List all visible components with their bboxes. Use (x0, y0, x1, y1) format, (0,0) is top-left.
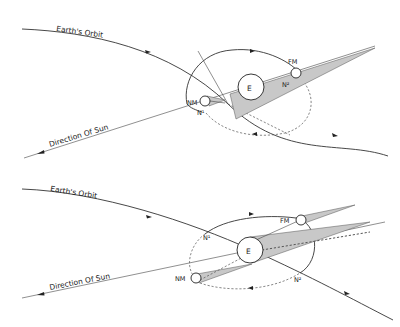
eclipse-diagram: Earth's Orbit Direction Of Sun E (0, 0, 400, 327)
sun-label: Direction Of Sun (48, 122, 110, 149)
orbit-arrow (146, 215, 152, 219)
earth-label: E (246, 247, 251, 256)
sun-direction-line (24, 46, 375, 158)
node1-label: N¹ (203, 234, 211, 242)
new-moon (191, 273, 201, 283)
orbit-label: Earth's Orbit (50, 184, 98, 200)
earth-label: E (247, 84, 252, 93)
node2-label: N² (294, 276, 302, 284)
sun-arrow (37, 150, 45, 154)
new-moon-label: NM (175, 275, 185, 283)
moon-orbit-arrow (250, 49, 255, 53)
new-moon-label: NM (187, 99, 197, 107)
sun-arrow (37, 292, 45, 296)
orbit-arrow (344, 291, 350, 295)
full-moon-label: FM (288, 58, 297, 66)
node1-label: N¹ (197, 109, 205, 117)
orbit-arrow (145, 50, 151, 54)
orbit-label: Earth's Orbit (56, 24, 104, 39)
orbit-arrow (332, 133, 338, 137)
moon-orbit-arrow (248, 286, 253, 290)
full-moon (296, 215, 306, 225)
moon-orbit-arrow (249, 212, 254, 216)
moon-orbit-arrow (252, 132, 257, 136)
bottom-diagram: Earth's Orbit Direction Of Sun E FM NM N… (22, 184, 393, 320)
node-line (198, 51, 228, 104)
full-moon-label: FM (280, 217, 289, 225)
full-moon-shadow-cone (302, 205, 355, 224)
top-diagram: Earth's Orbit Direction Of Sun E (22, 24, 388, 158)
node2-label: N² (282, 81, 290, 89)
sun-label: Direction Of Sun (49, 271, 111, 292)
new-moon-shadow-cone (197, 264, 252, 283)
full-moon (291, 68, 301, 78)
new-moon (200, 96, 210, 106)
